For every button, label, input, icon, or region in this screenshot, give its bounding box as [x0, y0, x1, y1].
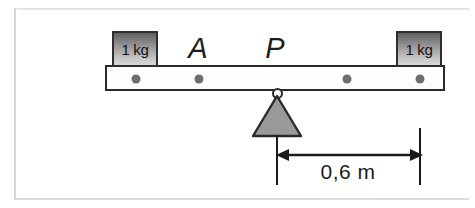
- page-frame-top-rule: [18, 9, 470, 10]
- beam-hole-2: [195, 75, 204, 84]
- mass-block-left: 1 kg: [112, 31, 158, 67]
- beam-hole-3: [343, 75, 352, 84]
- beam-hole-1: [132, 75, 141, 84]
- lever-beam: [105, 65, 445, 91]
- beam-hole-4: [416, 75, 425, 84]
- dimension-label: 0,6 m: [320, 160, 375, 184]
- mass-block-right: 1 kg: [396, 31, 442, 67]
- point-label-p: P: [265, 34, 284, 63]
- figure-canvas: 1 kg 1 kg A P 0,6 m: [0, 0, 475, 208]
- fulcrum-triangle-icon: [251, 94, 303, 138]
- point-label-a: A: [188, 34, 207, 63]
- mass-block-left-label: 1 kg: [121, 42, 148, 57]
- mass-block-right-label: 1 kg: [405, 42, 432, 57]
